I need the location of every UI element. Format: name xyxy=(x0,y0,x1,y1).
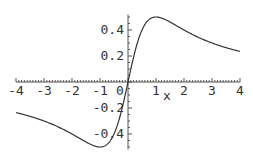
x-tick-label: -3 xyxy=(36,83,52,98)
x-tick-label: 0 xyxy=(116,83,124,98)
x-tick-label: 2 xyxy=(180,83,188,98)
x-tick-label: 4 xyxy=(236,83,244,98)
x-tick-label: 3 xyxy=(208,83,216,98)
y-tick-label: -0.2 xyxy=(93,100,124,115)
y-tick-label: -0.4 xyxy=(93,126,124,141)
x-tick-label: -1 xyxy=(92,83,108,98)
function-plot: -4-3-2-101234-0.4-0.20.20.4 x xyxy=(0,0,253,165)
x-tick-label: -4 xyxy=(8,83,24,98)
y-tick-label: 0.2 xyxy=(101,48,124,63)
x-tick-label: 1 xyxy=(152,83,160,98)
y-tick-label: 0.4 xyxy=(101,22,125,37)
x-axis-label: x xyxy=(163,88,171,103)
x-tick-label: -2 xyxy=(64,83,80,98)
